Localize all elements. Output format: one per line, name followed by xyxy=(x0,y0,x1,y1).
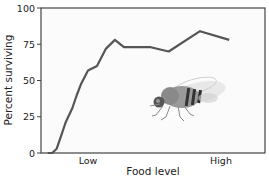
y-tick-75: 75 xyxy=(23,39,35,50)
y-tick-0: 0 xyxy=(29,148,35,159)
x-tick-high: High xyxy=(210,155,232,166)
y-axis-title: Percent surviving xyxy=(2,35,14,126)
survival-chart: 100 75 50 25 0 Percent surviving Low Hig… xyxy=(0,0,269,177)
y-tick-50: 50 xyxy=(23,75,35,86)
y-tick-25: 25 xyxy=(23,111,35,122)
x-axis-title: Food level xyxy=(126,165,179,177)
y-tick-100: 100 xyxy=(17,3,35,14)
plot-area xyxy=(41,8,265,153)
x-tick-low: Low xyxy=(79,155,98,166)
